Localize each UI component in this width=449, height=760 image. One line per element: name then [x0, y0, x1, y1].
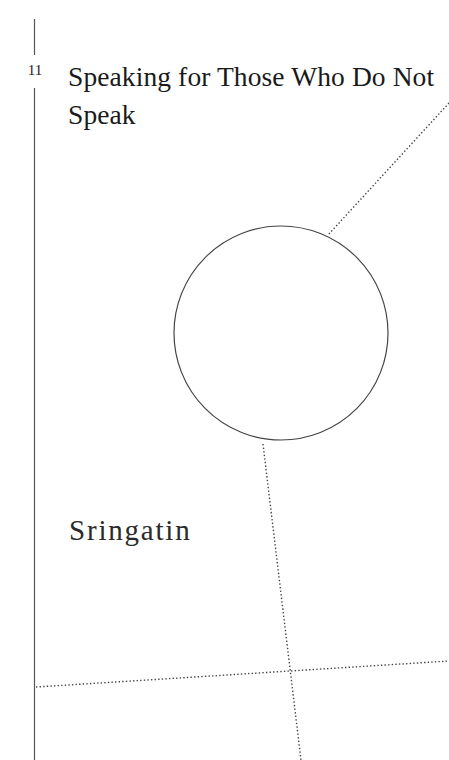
dotted-line-horizontal [36, 661, 449, 687]
chapter-number: 11 [24, 60, 46, 80]
circle-outline [174, 226, 388, 440]
chapter-opener-page: 11 Speaking for Those Who Do Not Speak S… [0, 0, 449, 760]
chapter-title: Speaking for Those Who Do Not Speak [68, 58, 438, 134]
chapter-author: Sringatin [69, 510, 192, 550]
dotted-line-lower-vertical [263, 444, 301, 760]
